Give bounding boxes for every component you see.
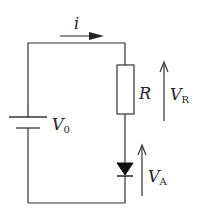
current-label: i (74, 14, 79, 33)
bottom-wire (28, 176, 125, 203)
resistor-label: R (138, 84, 151, 103)
arrow-head-icon (89, 32, 104, 40)
resistor-voltage-label: VR (170, 85, 190, 105)
diode-voltage-arrow (138, 145, 146, 196)
resistor-symbol (117, 65, 134, 114)
current-arrow (60, 32, 104, 40)
source-voltage-label: V0 (52, 115, 70, 135)
wires (28, 43, 125, 203)
diode-symbol (117, 163, 133, 176)
battery-symbol (9, 103, 47, 128)
diode-triangle (117, 163, 133, 175)
diode-voltage-label: VA (148, 167, 168, 187)
top-wire (28, 43, 125, 103)
circuit-diagram: i VR R VA V0 (0, 0, 203, 218)
resistor-voltage-arrow (160, 62, 168, 121)
